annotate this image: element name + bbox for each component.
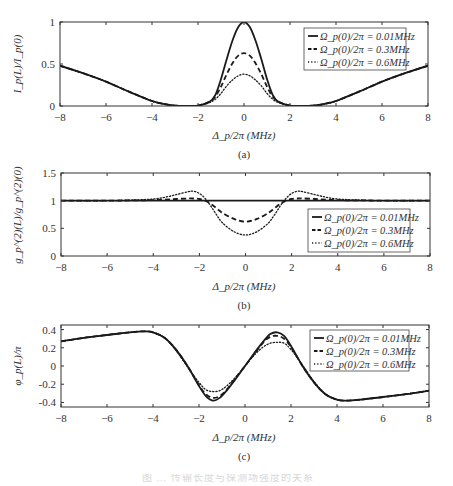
x-tick-label: −2: [192, 111, 204, 123]
y-tick-label: 1: [50, 16, 56, 28]
legend-label: Ω_p(0)/2π = 0.3MHz: [326, 346, 416, 358]
legend-label: Ω_p(0)/2π = 0.01MHz: [320, 31, 415, 43]
panel-c: −8−6−4−202468-0.4-0.200.20.4Ω_p(0)/2π = …: [11, 324, 432, 463]
panel-b-caption: (b): [238, 299, 251, 312]
panel-a-xlabel: Δ_p/2π (MHz): [212, 129, 276, 142]
figure-caption: 图 … 传输长度与探测场强度的关系: [128, 474, 328, 482]
figure-canvas: −8−6−4−20246800.51Ω_p(0)/2π = 0.01MHzΩ_p…: [0, 0, 453, 486]
x-tick-label: 6: [379, 111, 385, 123]
panel-b-xlabel: Δ_p/2π (MHz): [212, 280, 276, 293]
legend-label: Ω_p(0)/2π = 0.6MHz: [324, 238, 414, 250]
panel-c-xlabel: Δ_p/2π (MHz): [212, 431, 276, 444]
legend-label: Ω_p(0)/2π = 0.6MHz: [326, 359, 416, 371]
panel-b-plot: −8−6−4−20246800.511.5Ω_p(0)/2π = 0.01MHz…: [42, 167, 433, 273]
y-tick-label: 0: [50, 100, 56, 112]
x-tick-label: −6: [101, 261, 113, 273]
y-tick-label: 0: [51, 360, 57, 372]
x-tick-label: −4: [146, 111, 158, 123]
y-tick-label: -0.2: [39, 378, 56, 390]
x-tick-label: 2: [289, 261, 295, 273]
legend: Ω_p(0)/2π = 0.01MHzΩ_p(0)/2π = 0.3MHzΩ_p…: [304, 28, 415, 70]
y-tick-label: -0.4: [39, 396, 57, 408]
panel-b-ylabel: g_p^(2)(L)/g_p^(2)(0): [11, 166, 24, 264]
legend-label: Ω_p(0)/2π = 0.3MHz: [324, 225, 414, 237]
x-tick-label: −2: [193, 412, 205, 424]
panel-a-caption: (a): [238, 148, 251, 161]
x-tick-label: 0: [242, 412, 248, 424]
series-line-dotted: [60, 66, 428, 106]
x-tick-label: −8: [54, 111, 66, 123]
legend-label: Ω_p(0)/2π = 0.01MHz: [326, 333, 421, 345]
x-tick-label: 6: [380, 412, 386, 424]
x-tick-label: −6: [101, 412, 113, 424]
panel-a-ylabel: I_p(L)/I_p(0): [11, 34, 24, 94]
x-tick-label: 6: [381, 261, 387, 273]
panel-c-plot: −8−6−4−202468-0.4-0.200.20.4Ω_p(0)/2π = …: [39, 324, 433, 424]
x-tick-label: 4: [334, 412, 340, 424]
x-tick-label: −2: [194, 261, 206, 273]
panel-b: −8−6−4−20246800.511.5Ω_p(0)/2π = 0.01MHz…: [11, 166, 433, 312]
x-tick-label: −8: [55, 412, 67, 424]
y-tick-label: 0.4: [42, 324, 56, 336]
x-tick-label: −4: [147, 412, 159, 424]
y-tick-label: 0.5: [41, 58, 55, 70]
legend: Ω_p(0)/2π = 0.01MHzΩ_p(0)/2π = 0.3MHzΩ_p…: [308, 209, 419, 252]
x-tick-label: 4: [335, 261, 341, 273]
x-tick-label: 8: [427, 261, 433, 273]
panel-c-caption: (c): [238, 450, 251, 463]
x-tick-label: 8: [425, 111, 431, 123]
x-tick-label: 0: [243, 261, 249, 273]
legend-label: Ω_p(0)/2π = 0.6MHz: [320, 57, 410, 69]
x-tick-label: −8: [55, 261, 67, 273]
y-tick-label: 1: [51, 195, 57, 207]
x-tick-label: 2: [287, 111, 293, 123]
legend-label: Ω_p(0)/2π = 0.01MHz: [324, 212, 419, 224]
panel-c-ylabel: φ_p(L)/π: [11, 346, 24, 386]
legend: Ω_p(0)/2π = 0.01MHzΩ_p(0)/2π = 0.3MHzΩ_p…: [310, 330, 421, 371]
x-tick-label: 0: [241, 111, 247, 123]
panel-a-plot: −8−6−4−20246800.51Ω_p(0)/2π = 0.01MHzΩ_p…: [41, 16, 431, 123]
y-tick-label: 0.2: [42, 342, 56, 354]
x-tick-label: 2: [288, 412, 294, 424]
x-tick-label: −6: [100, 111, 112, 123]
x-tick-label: 4: [333, 111, 339, 123]
panel-a: −8−6−4−20246800.51Ω_p(0)/2π = 0.01MHzΩ_p…: [11, 16, 431, 161]
x-tick-label: −4: [147, 261, 159, 273]
legend-label: Ω_p(0)/2π = 0.3MHz: [320, 44, 410, 56]
x-tick-label: 8: [426, 412, 432, 424]
y-tick-label: 1.5: [42, 167, 56, 179]
y-tick-label: 0: [51, 250, 57, 262]
y-tick-label: 0.5: [42, 222, 56, 234]
